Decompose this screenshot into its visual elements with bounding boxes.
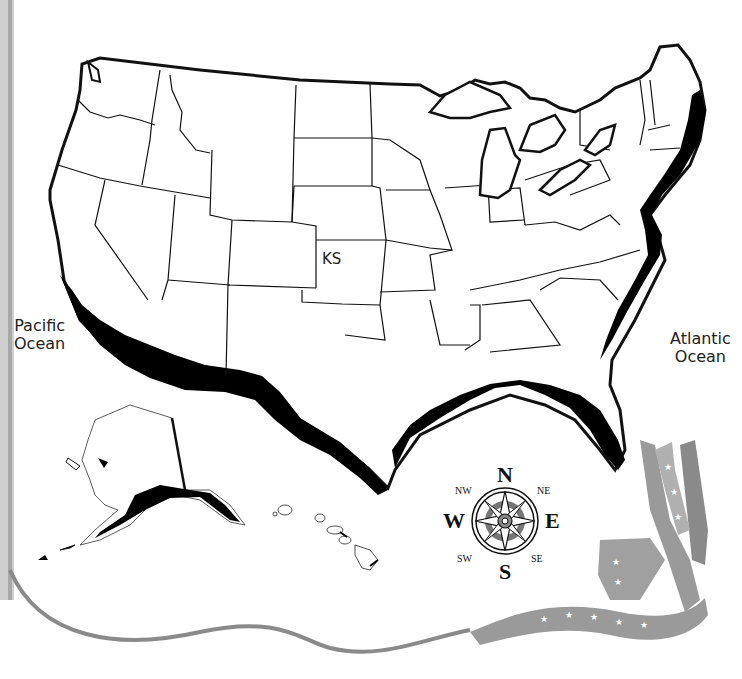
atlantic-line-2: Ocean xyxy=(670,348,731,366)
svg-text:★: ★ xyxy=(540,614,548,624)
pacific-line-2: Ocean xyxy=(14,335,65,353)
svg-text:★: ★ xyxy=(664,462,672,472)
alaska-inset xyxy=(38,405,245,560)
svg-text:★: ★ xyxy=(670,487,678,497)
compass-north: N xyxy=(497,462,513,488)
svg-text:★: ★ xyxy=(565,610,573,620)
compass-east: E xyxy=(545,508,560,534)
hawaii-inset xyxy=(273,505,378,570)
alaska-outline xyxy=(80,405,245,545)
svg-text:★: ★ xyxy=(615,617,623,627)
atlantic-ocean-label: Atlantic Ocean xyxy=(670,330,731,365)
compass-south: S xyxy=(499,559,511,585)
svg-text:★: ★ xyxy=(612,557,620,567)
border-curve xyxy=(10,570,470,652)
svg-text:★: ★ xyxy=(640,620,648,630)
compass-west: W xyxy=(443,508,465,534)
compass-southwest: SW xyxy=(457,553,472,564)
compass-southeast: SE xyxy=(531,553,543,564)
compass-northwest: NW xyxy=(455,485,472,496)
pacific-ocean-label: Pacific Ocean xyxy=(14,317,65,352)
state-label-kansas: KS xyxy=(322,251,341,268)
svg-text:★: ★ xyxy=(614,577,622,587)
svg-text:★: ★ xyxy=(590,612,598,622)
compass-rose xyxy=(472,488,538,554)
compass-northeast: NE xyxy=(537,485,550,496)
svg-text:★: ★ xyxy=(674,512,682,522)
map-canvas: ★★★ ★★ ★★★★★ xyxy=(0,0,742,679)
atlantic-line-1: Atlantic xyxy=(670,330,731,348)
pacific-line-1: Pacific xyxy=(14,317,65,335)
